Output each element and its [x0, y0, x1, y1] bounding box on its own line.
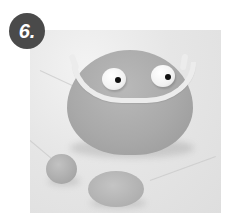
step-number-label: 6. [19, 20, 36, 43]
left-pupil [115, 77, 121, 83]
flat-clay-disc [88, 171, 144, 207]
small-clay-ball [46, 154, 77, 184]
step-photo [30, 30, 221, 213]
marble-vein [150, 156, 216, 181]
left-eye [102, 68, 126, 90]
right-pupil [165, 74, 171, 80]
right-eye [151, 65, 175, 87]
step-number-badge: 6. [9, 13, 45, 49]
